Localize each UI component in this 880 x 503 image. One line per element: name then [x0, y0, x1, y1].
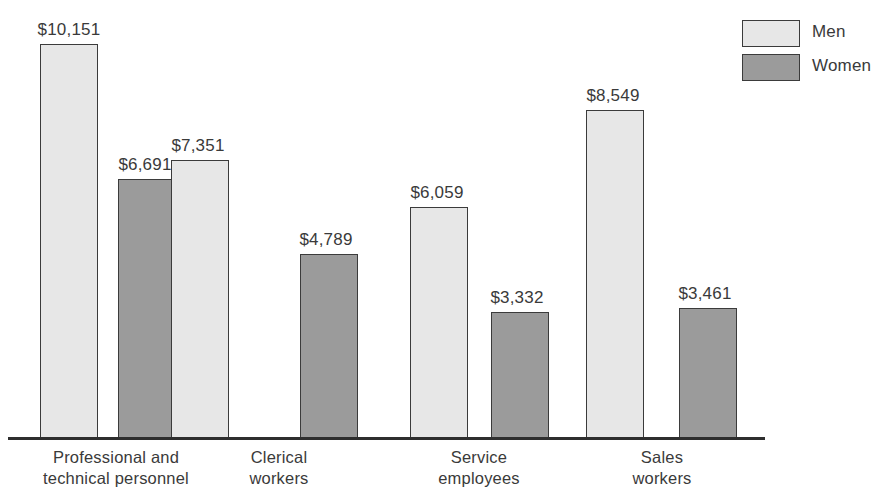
- axis-label-service: Service employees: [409, 447, 549, 489]
- bar-value-label: $3,332: [479, 288, 555, 308]
- axis-label-sales: Sales workers: [592, 447, 732, 489]
- bar-women-service: [491, 312, 549, 438]
- bar-men-service: [410, 207, 468, 438]
- axis-label-clerical: Clerical workers: [209, 447, 349, 489]
- bar-value-label: $6,059: [399, 183, 475, 203]
- bar-men-professional: [40, 44, 98, 438]
- bar-women-professional: [118, 179, 176, 438]
- bar-men-sales: [586, 110, 644, 438]
- legend-label-women: Women: [812, 56, 871, 76]
- legend: Men Women: [742, 18, 877, 86]
- bar-value-label: $3,461: [667, 284, 743, 304]
- bar-value-label: $4,789: [288, 230, 364, 250]
- bar-value-label: $8,549: [575, 86, 651, 106]
- bar-value-label: $7,351: [160, 136, 236, 156]
- legend-item-women: Women: [742, 52, 877, 86]
- legend-item-men: Men: [742, 18, 877, 52]
- legend-swatch-men-icon: [742, 20, 800, 47]
- bar-men-clerical: [171, 160, 229, 438]
- bar-value-label: $10,151: [27, 20, 111, 40]
- bar-chart: $10,151 $6,691 $7,351 $4,789 $6,059 $3,3…: [0, 0, 880, 503]
- legend-label-men: Men: [812, 22, 846, 42]
- x-axis-line: [8, 437, 765, 440]
- bar-women-sales: [679, 308, 737, 438]
- legend-swatch-women-icon: [742, 54, 800, 81]
- bar-women-clerical: [300, 254, 358, 438]
- axis-label-professional: Professional and technical personnel: [16, 447, 216, 489]
